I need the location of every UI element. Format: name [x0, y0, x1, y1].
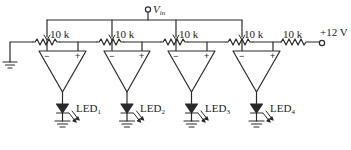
- r4-label: 10 k: [244, 29, 263, 40]
- led-4-icon: [251, 104, 263, 113]
- led-2-label: LED2: [140, 103, 165, 116]
- led-3-icon: [186, 104, 198, 113]
- opamp-2-inv-label: −: [109, 52, 114, 61]
- r1-label: 10 k: [50, 29, 69, 40]
- led-2-icon: [121, 104, 133, 113]
- led-1-icon: [57, 104, 69, 113]
- schematic-drawing: [0, 0, 351, 150]
- opamp-4-inv-label: −: [239, 52, 244, 61]
- circuit-diagram: Vin 10 k 10 k 10 k 10 k 10 k +12 V − + −…: [0, 0, 351, 150]
- opamp-3-inv-label: −: [173, 52, 178, 61]
- opamp-2-noninv-label: +: [139, 52, 144, 61]
- led-1-label: LED1: [76, 103, 101, 116]
- led-4-label: LED4: [270, 103, 295, 116]
- opamp-4-noninv-label: +: [270, 52, 275, 61]
- r2-label: 10 k: [115, 29, 134, 40]
- supply-label: +12 V: [320, 27, 348, 38]
- opamp-1-noninv-label: +: [75, 52, 80, 61]
- supply-terminal-icon: [319, 40, 324, 45]
- r5-label: 10 k: [283, 29, 302, 40]
- vin-terminal-icon: [145, 7, 150, 12]
- vin-label: Vin: [153, 4, 165, 17]
- r3-label: 10 k: [179, 29, 198, 40]
- opamp-1-inv-label: −: [44, 52, 49, 61]
- ground-left-icon: [3, 42, 33, 68]
- vin-bus: [47, 7, 242, 37]
- opamp-3-noninv-label: +: [204, 52, 209, 61]
- led-3-label: LED3: [205, 103, 230, 116]
